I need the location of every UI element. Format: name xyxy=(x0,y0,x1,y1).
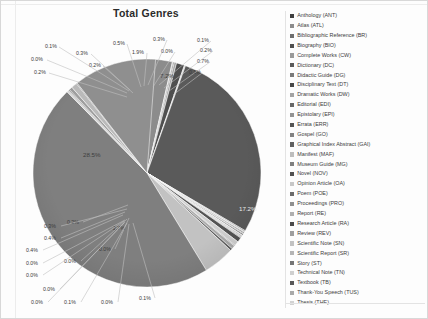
slice-label: 0.0% xyxy=(101,300,113,305)
legend-item[interactable]: Complete Works (CW) xyxy=(290,51,425,61)
legend-item[interactable]: Opinion Article (OA) xyxy=(290,179,425,189)
legend-item[interactable]: Technical Note (TN) xyxy=(290,268,425,278)
legend-item-label: Gospel (GO) xyxy=(297,132,328,137)
legend-item[interactable]: Bibliographic Reference (BR) xyxy=(290,31,425,41)
legend-item[interactable]: Errata (ERR) xyxy=(290,120,425,130)
legend-item[interactable]: Scientific Report (SR) xyxy=(290,248,425,258)
legend-item-label: Manifest (MAF) xyxy=(297,152,334,157)
legend-swatch-icon xyxy=(290,34,294,38)
legend-item[interactable]: Poem (POE) xyxy=(290,189,425,199)
legend-item-label: Errata (ERR) xyxy=(297,122,328,127)
legend-swatch-icon xyxy=(290,123,294,127)
legend-item-label: Proceedings (PRO) xyxy=(297,201,344,206)
slice-label: 0.1% xyxy=(64,300,76,305)
slice-label: 0.2% xyxy=(89,63,101,68)
legend-item-label: Novel (NOV) xyxy=(297,171,328,176)
legend-item[interactable]: Museum Guide (MG) xyxy=(290,159,425,169)
guide-line xyxy=(1,4,427,5)
legend-item-label: Report (RE) xyxy=(297,211,326,216)
legend-swatch-icon xyxy=(290,83,294,87)
legend-item-label: Textbook (TB) xyxy=(297,280,331,285)
slice-label: 0.2% xyxy=(34,70,46,75)
legend-swatch-icon xyxy=(290,63,294,67)
legend-item[interactable]: Novel (NOV) xyxy=(290,169,425,179)
legend-swatch-icon xyxy=(290,231,294,235)
slice-label: 0.0% xyxy=(26,273,38,278)
legend-item[interactable]: Research Article (RA) xyxy=(290,219,425,229)
legend-item[interactable]: Manifest (MAF) xyxy=(290,149,425,159)
slice-label-major: 28.5% xyxy=(83,152,101,158)
legend-swatch-icon xyxy=(290,113,294,117)
legend-item-label: Disciplinary Text (DT) xyxy=(297,82,348,87)
legend-item-label: Research Article (RA) xyxy=(297,221,349,226)
slice-label: 0.1% xyxy=(197,38,209,43)
legend-swatch-icon xyxy=(290,192,294,196)
pie-shading xyxy=(33,59,261,287)
legend-item-label: Atlas (ATL) xyxy=(297,23,324,28)
legend-item-label: Anthology (ANT) xyxy=(297,13,337,18)
legend-swatch-icon xyxy=(290,251,294,255)
slice-label: 1.9% xyxy=(132,50,144,55)
pie-svg[interactable] xyxy=(29,55,265,291)
legend-item-label: Opinion Article (OA) xyxy=(297,181,345,186)
legend-item-label: Complete Works (CW) xyxy=(297,53,351,58)
slice-label: 0.7% xyxy=(197,59,209,64)
legend-swatch-icon xyxy=(290,212,294,216)
legend-swatch-icon xyxy=(290,44,294,48)
legend-item-label: Biography (BIO) xyxy=(297,43,336,48)
legend-item-label: Technical Note (TN) xyxy=(297,270,345,275)
legend-swatch-icon xyxy=(290,152,294,156)
legend-item[interactable]: Disciplinary Text (DT) xyxy=(290,80,425,90)
legend-item[interactable]: Dramatic Works (DW) xyxy=(290,90,425,100)
legend-swatch-icon xyxy=(290,182,294,186)
legend-item-label: Museum Guide (MG) xyxy=(297,162,347,167)
legend-item-label: Story (ST) xyxy=(297,261,322,266)
legend-item-label: Scientific Report (SR) xyxy=(297,251,349,256)
legend-item-label: Dictionary (DC) xyxy=(297,63,334,68)
legend-item[interactable]: Proceedings (PRO) xyxy=(290,199,425,209)
legend-swatch-icon xyxy=(290,281,294,285)
legend-item[interactable]: Biography (BIO) xyxy=(290,41,425,51)
slice-label: 0.3% xyxy=(44,224,56,229)
legend-item[interactable]: Anthology (ANT) xyxy=(290,11,425,21)
legend-item[interactable]: Gospel (GO) xyxy=(290,130,425,140)
slice-label: 0.1% xyxy=(189,70,201,75)
legend-swatch-icon xyxy=(290,271,294,275)
slice-label: 0.5% xyxy=(113,41,125,46)
legend-swatch-icon xyxy=(290,53,294,57)
legend-item[interactable]: Textbook (TB) xyxy=(290,278,425,288)
slice-label: 0.0% xyxy=(31,300,43,305)
legend-item[interactable]: Didactic Guide (DG) xyxy=(290,70,425,80)
legend-swatch-icon xyxy=(290,162,294,166)
legend-item[interactable]: Review (REV) xyxy=(290,229,425,239)
legend-item[interactable]: Scientific Note (SN) xyxy=(290,238,425,248)
legend-swatch-icon xyxy=(290,202,294,206)
legend-item[interactable]: Atlas (ATL) xyxy=(290,21,425,31)
legend-swatch-icon xyxy=(290,103,294,107)
slice-label: 0.4% xyxy=(44,236,56,241)
legend-item[interactable]: Dictionary (DC) xyxy=(290,60,425,70)
legend-item[interactable]: Report (RE) xyxy=(290,209,425,219)
legend-item-label: Epistolary (EPI) xyxy=(297,112,334,117)
legend-item-label: Dramatic Works (DW) xyxy=(297,92,349,97)
legend-item[interactable]: Story (ST) xyxy=(290,258,425,268)
legend-swatch-icon xyxy=(290,241,294,245)
legend-item[interactable]: Editorial (EDI) xyxy=(290,100,425,110)
slice-label: 0.2% xyxy=(200,48,212,53)
legend-item[interactable]: Epistolary (EPI) xyxy=(290,110,425,120)
legend-item[interactable]: Thank-You Speech (TUS) xyxy=(290,288,425,298)
legend-item-label: Scientific Note (SN) xyxy=(297,241,344,246)
legend-swatch-icon xyxy=(290,73,294,77)
slice-label: 0.0% xyxy=(64,259,76,264)
slice-label: 0.2% xyxy=(67,220,79,225)
slice-label: 0.0% xyxy=(99,247,111,252)
legend-swatch-icon xyxy=(290,24,294,28)
chart-legend: Anthology (ANT)Atlas (ATL)Bibliographic … xyxy=(285,11,425,308)
legend-item[interactable]: Graphical Index Abstract (GAI) xyxy=(290,140,425,150)
legend-swatch-icon xyxy=(290,133,294,137)
pie-chart[interactable] xyxy=(29,55,265,291)
slice-label-major: 17.2% xyxy=(239,206,257,212)
slice-label: 0.3% xyxy=(76,51,88,56)
legend-swatch-icon xyxy=(290,93,294,97)
slice-label: 2.7% xyxy=(113,226,125,231)
